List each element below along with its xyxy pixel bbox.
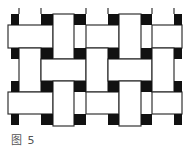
weave-strip: [86, 92, 119, 114]
weave-strip: [41, 59, 86, 81]
weave-strip: [86, 25, 119, 48]
crossing-square: [11, 81, 19, 92]
crossing-square: [141, 48, 152, 59]
crossing-square: [74, 48, 86, 59]
crossing-square: [108, 14, 119, 25]
weave-strip: [152, 48, 174, 92]
weave-strip: [119, 81, 141, 126]
crossing-square: [74, 114, 86, 125]
crossing-square: [108, 114, 119, 125]
weave-strip: [152, 25, 182, 48]
crossing-square: [141, 81, 152, 92]
crossing-square: [11, 114, 19, 125]
weave-strip: [86, 48, 108, 92]
crossing-square: [141, 114, 152, 125]
crossing-square: [74, 81, 86, 92]
crossing-square: [74, 14, 86, 25]
weave-strip: [152, 92, 182, 114]
weave-strip: [19, 48, 41, 92]
weave-strip: [8, 92, 53, 114]
weave-strip: [108, 59, 152, 81]
crossing-square: [174, 48, 182, 59]
weave-strip: [119, 14, 141, 59]
crossing-square: [108, 48, 119, 59]
crossing-square: [11, 14, 19, 25]
crossing-square: [174, 14, 182, 25]
crossing-square: [174, 114, 182, 125]
crossing-square: [41, 81, 53, 92]
crossing-square: [108, 81, 119, 92]
weave-strip: [53, 81, 74, 126]
weave-strips: [8, 14, 182, 126]
weave-pattern-diagram: [0, 0, 194, 130]
weave-strip: [53, 14, 74, 59]
figure-caption: 图 5: [11, 131, 36, 147]
crossing-square: [11, 48, 19, 59]
crossing-square: [41, 48, 53, 59]
weave-strip: [8, 25, 53, 48]
crossing-square: [41, 14, 53, 25]
crossing-square: [141, 14, 152, 25]
weave-edge-ticks: [19, 8, 174, 14]
crossing-square: [174, 81, 182, 92]
crossing-square: [41, 114, 53, 125]
